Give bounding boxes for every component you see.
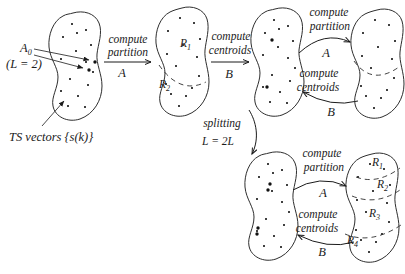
region-label: R4 xyxy=(346,234,358,249)
initial-codebook-label: A0 xyxy=(19,41,32,57)
operation-tag: A xyxy=(318,186,327,200)
region-label: R3 xyxy=(368,207,380,222)
operation-label: compute xyxy=(299,208,338,221)
operation-tag: B xyxy=(327,105,335,119)
split-centroids-blob xyxy=(245,152,298,260)
operation-tag: A xyxy=(117,66,126,80)
partition-divider xyxy=(354,61,399,75)
region-label: R2 xyxy=(376,178,388,193)
centroid-dot xyxy=(255,232,258,235)
operation-label: compute xyxy=(109,33,148,46)
centroid-dot xyxy=(93,60,96,63)
compute-partition-step-1: compute partition A xyxy=(104,33,151,80)
loop-arrow-back xyxy=(298,235,354,245)
splitting-arrow xyxy=(249,110,256,154)
four-region-partition-blob: R1 R2 R3 R4 xyxy=(345,153,401,262)
lbg-algorithm-diagram: A0 (L = 2) TS vectors {s(k)} compute par… xyxy=(0,0,405,274)
operation-label: centroids xyxy=(209,44,252,56)
training-vector-dots xyxy=(60,23,94,108)
operation-tag: B xyxy=(318,245,326,259)
region-label: R1 xyxy=(179,37,191,52)
updated-centroids-blob xyxy=(251,8,304,116)
operation-label: compute xyxy=(300,67,339,80)
region-label: R1 xyxy=(371,156,383,171)
centroid-dot xyxy=(270,38,273,41)
region-label: R2 xyxy=(158,78,170,93)
operation-label: partition xyxy=(107,46,149,59)
centroid-dot xyxy=(268,182,271,185)
two-region-partition-blob: R1 R2 xyxy=(156,7,209,116)
operation-label: partition xyxy=(303,161,345,174)
operation-label: centroids xyxy=(296,222,339,234)
centroid-dot xyxy=(265,85,268,88)
codebook-size-label: (L = 2) xyxy=(6,57,42,71)
loop-arrow-back xyxy=(303,92,358,103)
training-vector-dots xyxy=(165,17,201,107)
compute-centroids-step-1: compute centroids B xyxy=(209,30,252,81)
iteration-loop-bottom: compute partition A compute centroids B xyxy=(293,147,354,259)
operation-label: centroids xyxy=(297,81,340,93)
centroid-dot xyxy=(87,68,90,71)
iteration-loop-top: compute partition A compute centroids B xyxy=(297,6,358,119)
splitting-step: splitting L = 2L xyxy=(201,110,256,154)
diagram-canvas: A0 (L = 2) TS vectors {s(k)} compute par… xyxy=(0,0,405,274)
centroid-dot xyxy=(256,226,259,229)
training-vector-dots xyxy=(256,163,290,248)
operation-label: L = 2L xyxy=(201,135,234,147)
centroid-dot xyxy=(266,188,269,191)
operation-label: compute xyxy=(310,6,349,19)
training-vector-dots xyxy=(360,19,396,109)
operation-tag: A xyxy=(321,46,330,60)
operation-label: partition xyxy=(309,20,351,33)
operation-label: compute xyxy=(303,147,342,160)
training-vector-dots xyxy=(262,19,296,104)
partition-divider xyxy=(352,190,400,200)
operation-tag: B xyxy=(225,67,233,81)
operation-label: compute xyxy=(212,30,251,43)
operation-label: splitting xyxy=(203,117,241,130)
training-set-label: TS vectors {s(k)} xyxy=(9,130,93,144)
repartitioned-blob-top xyxy=(351,9,404,118)
